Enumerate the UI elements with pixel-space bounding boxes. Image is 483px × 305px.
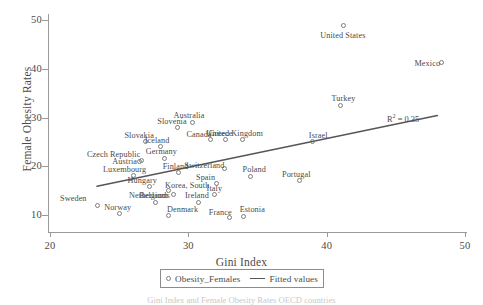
y-tick-label-wrap: 10 (0, 210, 42, 221)
data-point-label: Ireland (185, 191, 209, 200)
data-point[interactable] (196, 200, 201, 205)
data-point-label: Portugal (282, 170, 311, 179)
y-axis-title: Female Obesity Rates (21, 29, 33, 209)
data-point-label: France (209, 208, 232, 217)
data-point[interactable] (341, 23, 346, 28)
data-point-label: United Kingdom (206, 129, 263, 138)
y-tick-label-wrap: 50 (0, 15, 42, 26)
data-point-label: Denmark (167, 205, 198, 214)
data-point[interactable] (241, 214, 246, 219)
data-point-label: Poland (243, 165, 266, 174)
data-point[interactable] (176, 170, 181, 175)
r-squared-annotation: R2 = 0.35 (387, 112, 419, 124)
data-point-label: Israel (309, 131, 328, 140)
data-point-label: Switzerland (184, 161, 224, 170)
legend-entry-fitted-values[interactable]: Fitted values (250, 274, 318, 284)
x-tick-mark (327, 232, 328, 237)
data-point-label: Czech Republic (87, 150, 140, 159)
x-tick-mark (188, 232, 189, 237)
legend-label-fitted-values: Fitted values (269, 274, 318, 284)
data-point[interactable] (117, 211, 122, 216)
r-squared-value: = 0.35 (396, 115, 420, 124)
legend-entry-obesity-females[interactable]: Obesity_Females (166, 274, 240, 284)
figure-caption: Gini Index and Female Obesity Rates OECD… (0, 295, 483, 305)
data-point[interactable] (190, 120, 195, 125)
data-point[interactable] (212, 192, 217, 197)
x-axis-line (48, 232, 467, 233)
x-tick-label: 40 (307, 240, 347, 251)
x-tick-mark (465, 232, 466, 237)
x-tick-label: 50 (445, 240, 483, 251)
open-circle-marker-icon (166, 276, 171, 281)
data-point-label: Spain (196, 173, 215, 182)
y-tick-label: 10 (14, 210, 42, 221)
data-point[interactable] (223, 137, 228, 142)
data-point-label: Hungary (128, 176, 157, 185)
chart-legend: Obesity_Females Fitted values (160, 269, 324, 288)
data-point[interactable] (310, 139, 315, 144)
x-axis-title: Gini Index (0, 256, 483, 268)
data-point[interactable] (175, 125, 180, 130)
y-tick-mark (42, 166, 48, 167)
data-point-label: Netherlands (129, 191, 170, 200)
x-tick-mark (50, 232, 51, 237)
data-point-label: Australia (173, 111, 204, 120)
data-point[interactable] (95, 203, 100, 208)
legend-label-obesity-females: Obesity_Females (175, 274, 240, 284)
y-tick-label: 50 (14, 15, 42, 26)
data-point[interactable] (240, 137, 245, 142)
data-point[interactable] (162, 156, 167, 161)
y-tick-mark (42, 69, 48, 70)
data-point-label: Estonia (240, 205, 265, 214)
data-point[interactable] (171, 192, 176, 197)
data-point[interactable] (338, 103, 343, 108)
data-point[interactable] (137, 159, 142, 164)
data-point-label: Iceland (145, 136, 170, 145)
plot-area: 1020304050 20304050 SwedenNorwayLuxembou… (0, 0, 483, 245)
data-point-label: Norway (104, 203, 131, 212)
line-marker-icon (250, 278, 265, 279)
data-point[interactable] (297, 178, 302, 183)
data-point[interactable] (248, 174, 253, 179)
y-axis-line (48, 14, 49, 233)
data-point-label: Mexico (414, 59, 440, 68)
x-tick-label: 30 (168, 240, 208, 251)
data-point-label: Turkey (332, 94, 356, 103)
data-point-label: United States (320, 31, 365, 40)
data-point-label: Sweden (60, 194, 87, 203)
y-tick-mark (42, 215, 48, 216)
y-tick-mark (42, 118, 48, 119)
y-tick-mark (42, 20, 48, 21)
data-point[interactable] (153, 200, 158, 205)
x-tick-label: 20 (30, 240, 70, 251)
